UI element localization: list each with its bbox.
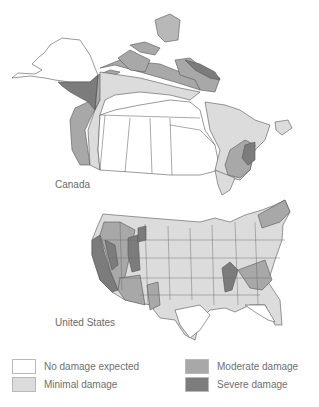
swatch-moderate [185, 359, 209, 374]
canada-label: Canada [55, 179, 90, 190]
legend-item-minimal: Minimal damage [12, 375, 117, 393]
damage-map [0, 0, 319, 350]
canada-map [12, 14, 292, 195]
legend-item-no-damage: No damage expected [12, 357, 139, 375]
swatch-severe [185, 377, 209, 392]
legend-item-moderate: Moderate damage [185, 357, 298, 375]
swatch-minimal [12, 377, 36, 392]
legend: No damage expected Minimal damage Modera… [0, 350, 319, 407]
arctic-islands [155, 14, 180, 42]
legend-item-severe: Severe damage [185, 375, 288, 393]
legend-label: Minimal damage [44, 379, 117, 390]
northeast-moderate [258, 200, 290, 228]
us-map [92, 200, 290, 340]
prairies-region [98, 100, 220, 175]
us-label: United States [55, 317, 115, 328]
arizona-moderate [118, 275, 145, 305]
swatch-no-damage [12, 359, 36, 374]
legend-label: No damage expected [44, 361, 139, 372]
legend-label: Severe damage [217, 379, 288, 390]
alaska-region [12, 38, 98, 82]
nm-moderate [147, 282, 160, 310]
texas-white [175, 305, 210, 338]
idaho-severe [138, 226, 146, 242]
legend-label: Moderate damage [217, 361, 298, 372]
newfoundland [275, 120, 292, 135]
